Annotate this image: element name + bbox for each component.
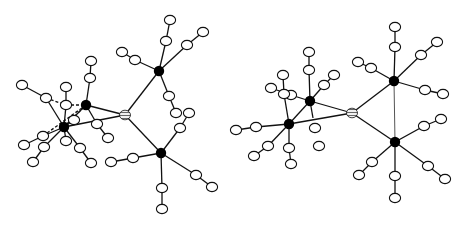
metal-atom <box>390 137 400 147</box>
light-atom <box>435 114 446 123</box>
bond-line <box>159 45 187 71</box>
light-atom <box>230 125 241 134</box>
light-atom <box>16 80 27 89</box>
light-atom <box>163 91 174 100</box>
bond-line <box>310 101 352 113</box>
bond-line <box>289 113 352 124</box>
bond-line <box>161 153 162 188</box>
light-atom <box>38 142 49 151</box>
molecule-right <box>230 22 450 202</box>
bond-line <box>395 142 428 166</box>
metal-atom <box>284 119 294 129</box>
light-atom <box>437 89 448 98</box>
bond-line <box>161 153 196 175</box>
light-atom <box>60 100 71 109</box>
light-atom <box>318 80 329 89</box>
light-atom <box>181 40 192 49</box>
light-atom <box>164 15 175 24</box>
light-atom <box>190 170 201 179</box>
metal-atom <box>81 100 91 110</box>
light-atom <box>197 27 208 36</box>
light-atom <box>85 158 96 167</box>
light-atom <box>353 170 364 179</box>
light-atom <box>160 36 171 45</box>
light-atom <box>415 50 426 59</box>
light-atom <box>303 47 314 56</box>
light-atom <box>389 171 400 180</box>
light-atom <box>419 85 430 94</box>
light-atom <box>303 65 314 74</box>
metal-atom <box>154 66 164 76</box>
light-atom <box>283 143 294 152</box>
light-atom <box>265 83 276 92</box>
light-atom <box>37 131 48 140</box>
light-atom <box>278 89 289 98</box>
bond-line <box>352 113 395 142</box>
bond-line <box>352 81 394 113</box>
light-atom <box>418 121 429 130</box>
light-atom <box>129 55 140 64</box>
light-atom <box>328 70 339 79</box>
molecule-left <box>16 15 217 213</box>
light-atom <box>277 70 288 79</box>
light-atom <box>84 73 95 82</box>
bond-line <box>86 105 125 115</box>
light-atom <box>309 123 320 132</box>
light-atom <box>285 159 296 168</box>
light-atom <box>248 151 259 160</box>
light-atom <box>422 161 433 170</box>
light-atom <box>389 22 400 31</box>
central-atom <box>347 108 358 118</box>
light-atom <box>127 153 138 162</box>
light-atom <box>85 56 96 65</box>
light-atom <box>352 57 363 66</box>
light-atom <box>60 136 71 145</box>
light-atom <box>206 182 217 191</box>
metal-atom <box>59 122 69 132</box>
bond-line <box>125 115 161 153</box>
light-atom <box>262 141 273 150</box>
light-atom <box>156 204 167 213</box>
light-atom <box>68 115 79 124</box>
light-atom <box>439 174 450 183</box>
light-atom <box>60 82 71 91</box>
light-atom <box>250 122 261 131</box>
bond-line <box>394 55 421 81</box>
light-atom <box>18 140 29 149</box>
central-atom <box>120 110 131 120</box>
light-atom <box>156 183 167 192</box>
light-atom <box>389 193 400 202</box>
light-atom <box>366 157 377 166</box>
light-atom <box>431 37 442 46</box>
light-atom <box>74 143 85 152</box>
light-atom <box>183 108 194 117</box>
light-atom <box>365 63 376 72</box>
light-atom <box>105 157 116 166</box>
light-atom <box>102 133 113 142</box>
metal-atom <box>156 148 166 158</box>
molecular-structures-figure <box>0 0 463 226</box>
light-atom <box>116 47 127 56</box>
light-atom <box>313 141 324 150</box>
light-atom <box>389 42 400 51</box>
metal-metal-bond-line <box>394 81 395 142</box>
bond-line <box>125 71 159 115</box>
light-atom <box>174 123 185 132</box>
light-atom <box>40 93 51 102</box>
light-atom <box>170 108 181 117</box>
light-atom <box>27 157 38 166</box>
metal-atom <box>389 76 399 86</box>
light-atom <box>91 119 102 128</box>
metal-atom <box>305 96 315 106</box>
